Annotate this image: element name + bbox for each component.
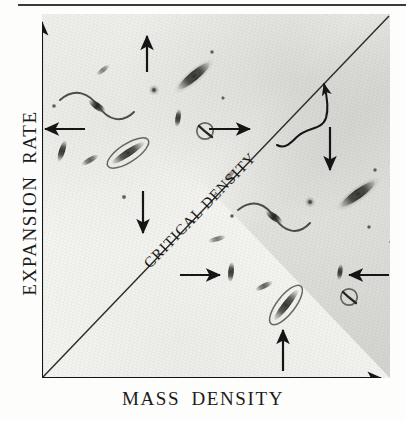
critical-density-leader-arrow: [277, 84, 327, 146]
expansion-arrows: [45, 36, 250, 233]
page-top-rule: [18, 4, 406, 6]
plot-drawing: CRITICAL DENSITY: [42, 14, 390, 378]
plot-panel: CRITICAL DENSITY: [42, 14, 390, 378]
svg-text:CRITICAL DENSITY: CRITICAL DENSITY: [141, 149, 260, 271]
ring-galaxy-lower: [341, 289, 357, 305]
critical-density-label: CRITICAL DENSITY: [141, 149, 260, 271]
edge-on-galaxy-upper: [103, 132, 153, 173]
x-axis-label: MASS DENSITY: [0, 388, 406, 410]
collapsing-cluster-galaxies: [208, 168, 390, 339]
expanding-cluster-galaxies: [52, 50, 238, 200]
y-axis-label: EXPANSION RATE: [19, 23, 41, 383]
ring-galaxy-upper: [197, 123, 213, 139]
edge-on-galaxy-lower: [264, 281, 308, 330]
collapse-arrows: [180, 127, 389, 371]
figure-page: CRITICAL DENSITY MASS DENSITY EXPANSION …: [0, 0, 406, 421]
